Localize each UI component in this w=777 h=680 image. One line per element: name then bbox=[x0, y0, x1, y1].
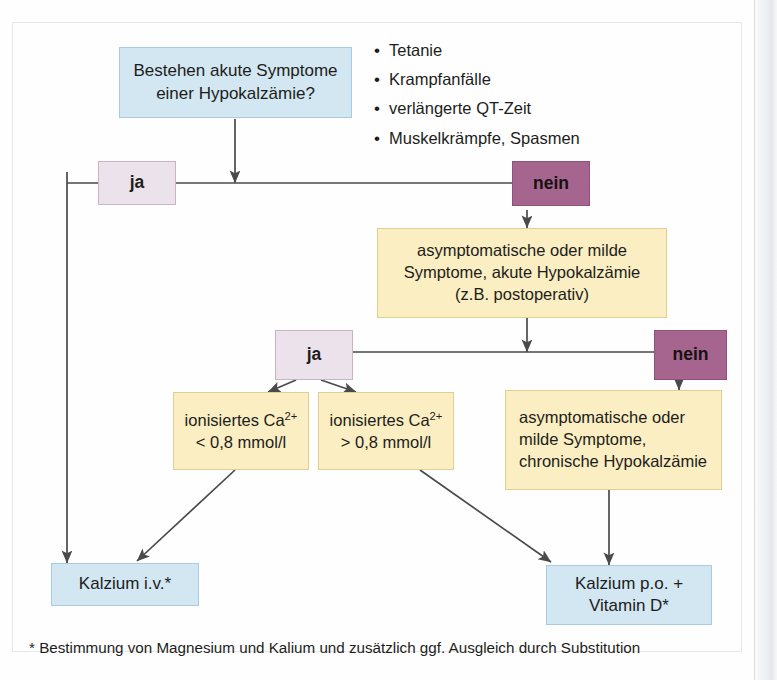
list-item: • Krampfanfälle bbox=[374, 65, 674, 94]
bullet-icon: • bbox=[374, 124, 389, 153]
question-line-1: Bestehen akute Symptome bbox=[133, 61, 337, 80]
bullet-icon: • bbox=[374, 94, 389, 123]
node-question: Bestehen akute Symptome einer Hypokalzäm… bbox=[119, 47, 352, 118]
symptom-label: Tetanie bbox=[389, 36, 442, 64]
question-line-2: einer Hypokalzämie? bbox=[156, 84, 315, 103]
node-decision-2-no: nein bbox=[654, 330, 727, 380]
treatment-po-line-1: Kalzium p.o. + bbox=[575, 574, 683, 593]
symptom-label: Muskelkrämpfe, Spasmen bbox=[389, 124, 580, 152]
ca-low-line-2: < 0,8 mmol/l bbox=[196, 433, 286, 451]
flowchart-page: Bestehen akute Symptome einer Hypokalzäm… bbox=[0, 0, 777, 680]
node-chronic-hypocalcemia: asymptomatische oder milde Symptome, chr… bbox=[505, 390, 722, 490]
list-item: • Tetanie bbox=[374, 36, 674, 65]
symptom-list: • Tetanie • Krampfanfälle • verlängerte … bbox=[374, 36, 674, 153]
symptom-label: verlängerte QT-Zeit bbox=[389, 94, 531, 122]
node-treatment-po: Kalzium p.o. + Vitamin D* bbox=[546, 565, 712, 625]
node-acute-hypocalcemia: asymptomatische oder milde Symptome, aku… bbox=[377, 228, 667, 318]
node-ionized-ca-high: ionisiertes Ca2+ > 0,8 mmol/l bbox=[318, 392, 454, 470]
node-decision-2-yes: ja bbox=[275, 330, 353, 380]
scanned-page-edge bbox=[752, 0, 777, 680]
bullet-icon: • bbox=[374, 65, 389, 94]
node-decision-1-yes: ja bbox=[98, 161, 176, 205]
ca-high-line-1: ionisiertes Ca2+ bbox=[330, 411, 443, 429]
treatment-po-line-2: Vitamin D* bbox=[589, 596, 669, 615]
ca-low-line-1: ionisiertes Ca2+ bbox=[185, 411, 298, 429]
list-item: • verlängerte QT-Zeit bbox=[374, 94, 674, 123]
chronic-line-3: chronische Hypokalzämie bbox=[519, 452, 707, 470]
acute-line-2: Symptome, akute Hypokalzämie bbox=[404, 263, 641, 281]
node-treatment-iv: Kalzium i.v.* bbox=[51, 563, 199, 606]
symptom-label: Krampfanfälle bbox=[389, 65, 491, 93]
footnote: * Bestimmung von Magnesium und Kalium un… bbox=[29, 639, 640, 656]
node-ionized-ca-low: ionisiertes Ca2+ < 0,8 mmol/l bbox=[173, 392, 309, 470]
chronic-line-2: milde Symptome, bbox=[519, 430, 646, 448]
node-decision-1-no: nein bbox=[512, 161, 590, 206]
acute-line-3: (z.B. postoperativ) bbox=[455, 285, 589, 303]
chronic-line-1: asymptomatische oder bbox=[519, 408, 685, 426]
page-edge-line bbox=[754, 0, 755, 680]
acute-line-1: asymptomatische oder milde bbox=[417, 241, 627, 259]
list-item: • Muskelkrämpfe, Spasmen bbox=[374, 124, 674, 153]
ca-high-line-2: > 0,8 mmol/l bbox=[341, 433, 431, 451]
bullet-icon: • bbox=[374, 36, 389, 65]
